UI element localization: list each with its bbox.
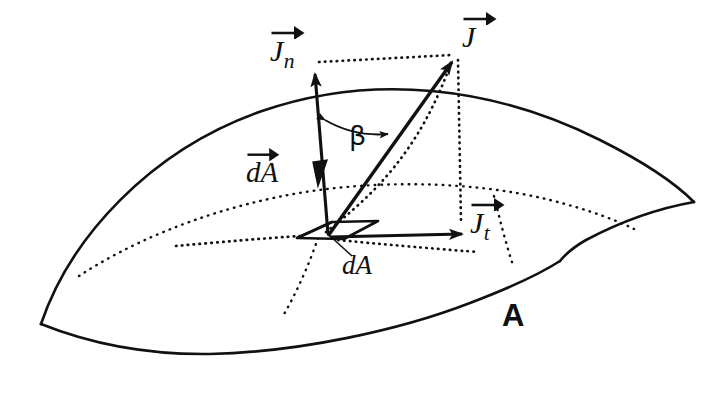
jn-symbol: J: [270, 34, 283, 67]
jt-subscript: t: [484, 221, 490, 245]
da-vector-symbol: dA: [246, 156, 278, 188]
jn-vector-label: J n: [270, 36, 295, 73]
figure-canvas: J n J dA β J t dA A: [0, 0, 726, 400]
jt-symbol: J: [470, 206, 483, 239]
j-vector-label: J: [462, 22, 475, 52]
da-scalar-label: dA: [342, 252, 372, 279]
vector-diagram-svg: [0, 0, 726, 400]
beta-angle-label: β: [349, 122, 366, 149]
jn-subscript: n: [284, 49, 295, 73]
da-vector-label: dA: [246, 158, 278, 187]
normal-vector-shaft: [315, 74, 328, 234]
j-symbol: J: [462, 20, 475, 53]
surface-area-label: A: [502, 300, 524, 331]
jt-vector-label: J t: [470, 208, 490, 245]
